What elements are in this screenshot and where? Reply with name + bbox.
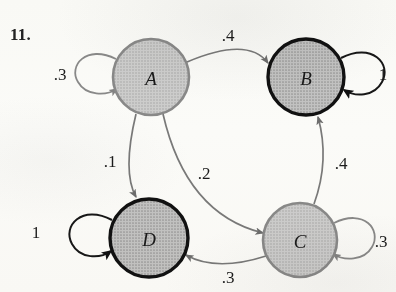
diagram-canvas: A B C D .3 .4 .1 .2 1 .4 .3 .3 [0, 0, 396, 292]
node-b[interactable]: B [268, 39, 344, 115]
node-c[interactable]: C [263, 203, 337, 277]
node-d[interactable]: D [110, 199, 188, 277]
node-c-label: C [294, 231, 307, 252]
edge-label-c-to-d: .3 [222, 268, 235, 287]
edge-label-a-self: .3 [54, 65, 67, 84]
edge-label-c-to-b: .4 [335, 154, 348, 173]
edge-label-a-to-c: .2 [198, 164, 211, 183]
self-loop-d [69, 214, 112, 256]
edge-label-d-self: 1 [32, 223, 41, 242]
edge-c-to-b [314, 117, 323, 204]
problem-number-label: 11. [10, 25, 31, 45]
node-b-label: B [300, 68, 312, 89]
node-d-label: D [141, 229, 156, 250]
node-a[interactable]: A [113, 39, 189, 115]
edge-label-b-self: 1 [379, 65, 388, 84]
edge-label-a-to-d: .1 [104, 152, 117, 171]
edge-a-to-b [187, 49, 268, 63]
edge-label-c-self: .3 [375, 232, 388, 251]
edge-c-to-d [186, 255, 266, 264]
edge-a-to-d [129, 114, 136, 197]
edge-label-a-to-b: .4 [222, 26, 235, 45]
nodes-layer: A B C D [110, 39, 344, 277]
self-loop-a [75, 54, 117, 94]
self-loop-c [333, 218, 375, 259]
node-a-label: A [143, 68, 157, 89]
markov-chain-figure: 11. [0, 0, 396, 292]
